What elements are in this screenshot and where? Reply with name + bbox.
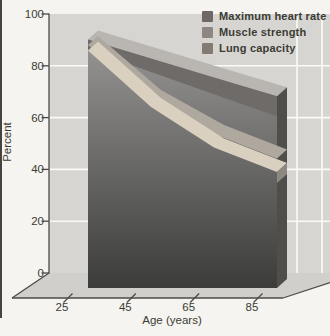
y-axis-label: Percent xyxy=(1,121,13,161)
legend-item-lung-capacity: Lung capacity xyxy=(202,42,327,55)
chart-legend: Maximum heart rate Muscle strength Lung … xyxy=(202,10,327,55)
x-axis-label: Age (years) xyxy=(142,314,202,326)
legend-swatch-lung-capacity-icon xyxy=(202,43,213,54)
legend-item-muscle-strength: Muscle strength xyxy=(202,26,327,39)
legend-item-max-heart-rate: Maximum heart rate xyxy=(202,10,327,23)
y-tick-label: 60 xyxy=(31,112,44,124)
x-tick-label: 25 xyxy=(56,301,69,313)
page-edge-line xyxy=(0,0,2,318)
y-tick-label: 20 xyxy=(31,215,44,227)
x-tick-label: 85 xyxy=(246,301,259,313)
legend-label-max-heart-rate: Maximum heart rate xyxy=(219,10,327,23)
y-tick-label: 100 xyxy=(25,8,44,20)
y-tick-label: 40 xyxy=(31,163,44,175)
legend-swatch-muscle-strength-icon xyxy=(202,27,213,38)
legend-label-lung-capacity: Lung capacity xyxy=(219,42,296,55)
y-tick-label: 0 xyxy=(38,267,44,279)
legend-swatch-max-heart-rate-icon xyxy=(202,11,213,22)
y-tick-label: 80 xyxy=(31,60,44,72)
slab-right-face xyxy=(277,87,287,288)
aging-body-function-chart: 02040608010025456585 Percent Age (years)… xyxy=(0,0,330,336)
legend-label-muscle-strength: Muscle strength xyxy=(219,26,306,39)
x-tick-label: 45 xyxy=(119,301,132,313)
x-tick-label: 65 xyxy=(182,301,195,313)
